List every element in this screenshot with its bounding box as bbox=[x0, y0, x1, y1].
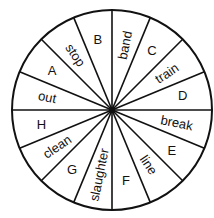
sector-label-c: C bbox=[147, 43, 156, 58]
sector-label-a: A bbox=[48, 63, 57, 78]
sector-label-f: F bbox=[122, 173, 130, 188]
sector-label-h: H bbox=[37, 117, 46, 132]
sector-label-out: out bbox=[37, 88, 58, 106]
sector-label-d: D bbox=[178, 88, 187, 103]
wheel-hub bbox=[109, 107, 115, 113]
sector-label-g: G bbox=[67, 162, 77, 177]
sector-label-e: E bbox=[168, 143, 177, 158]
sector-labels: bandCtrainDbreakElineFslaughterGcleanHou… bbox=[37, 30, 195, 203]
sector-label-b: B bbox=[94, 32, 103, 47]
word-wheel: bandCtrainDbreakElineFslaughterGcleanHou… bbox=[0, 0, 214, 218]
sector-label-break: break bbox=[159, 112, 194, 133]
sector-label-clean: clean bbox=[40, 132, 74, 162]
sector-label-band: band bbox=[115, 30, 135, 61]
sector-label-slaughter: slaughter bbox=[87, 146, 112, 202]
